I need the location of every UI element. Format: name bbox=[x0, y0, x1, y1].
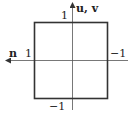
tick-label-left: 1 bbox=[25, 47, 32, 60]
tick-label-right: −1 bbox=[110, 47, 126, 60]
tick-label-top: 1 bbox=[61, 9, 68, 22]
horizontal-axis-label: n bbox=[9, 47, 17, 60]
diagram-canvas: u, v n 1 −1 1 −1 bbox=[0, 0, 134, 113]
tick-label-bottom: −1 bbox=[49, 100, 65, 113]
vertical-axis-label: u, v bbox=[76, 2, 99, 15]
